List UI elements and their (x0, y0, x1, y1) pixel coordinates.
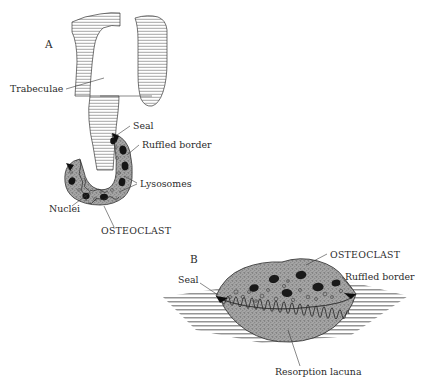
label-trabeculae: Trabeculae (10, 83, 64, 94)
label-osteoclast-b: OSTEOCLAST (330, 249, 401, 260)
label-lysosomes: Lysosomes (140, 178, 192, 189)
label-seal-b: Seal (178, 274, 199, 285)
label-resorption-lacuna: Resorption lacuna (275, 366, 362, 377)
leader-osteoclast-a (104, 206, 114, 227)
panel-b-letter: B (190, 253, 198, 265)
figure-root: A Trabeculae Seal Ruffled border Lysosom… (0, 0, 430, 391)
label-nuclei: Nuclei (49, 203, 80, 214)
panel-a-letter: A (44, 38, 53, 50)
osteoclast-figure: A Trabeculae Seal Ruffled border Lysosom… (0, 0, 430, 391)
trabecula-right-lobe (135, 16, 167, 106)
leader-seal-a (117, 126, 130, 135)
trabecula-left-mass (72, 13, 120, 96)
label-ruffled-border-b: Ruffled border (345, 271, 415, 282)
label-ruffled-border-a: Ruffled border (142, 139, 212, 150)
trabecula-spicule (89, 96, 119, 170)
panel-a: A Trabeculae Seal Ruffled border Lysosom… (10, 13, 212, 236)
label-seal-a: Seal (133, 120, 154, 131)
panel-b: B OSTEOCLAST Ruffled border Seal Resorpt… (160, 249, 415, 377)
label-osteoclast-a: OSTEOCLAST (101, 225, 172, 236)
